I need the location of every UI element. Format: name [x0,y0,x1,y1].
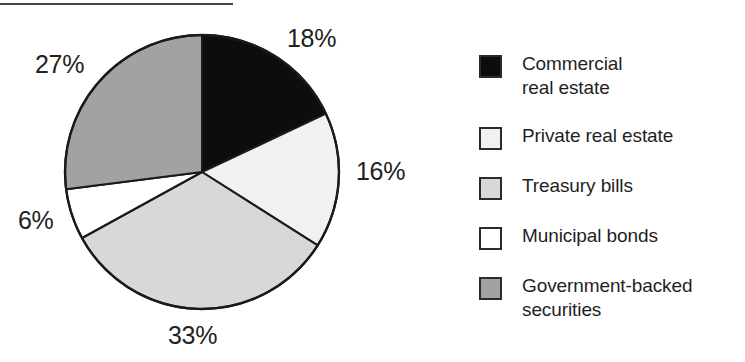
pie-slice-label-government-backed-securities: 27% [35,52,84,77]
legend-item-treasury-bills: Treasury bills [479,174,745,200]
legend-swatch-icon [479,277,502,300]
pie-slice-label-commercial-real-estate: 18% [287,26,336,51]
legend-item-label: Municipal bonds [522,224,658,248]
legend-item-label: Private real estate [522,124,673,148]
legend-item-government-backed-securities: Government-backed securities [479,274,745,322]
chart-legend: Commercial real estate Private real esta… [479,52,745,322]
legend-item-commercial-real-estate: Commercial real estate [479,52,745,100]
legend-item-municipal-bonds: Municipal bonds [479,224,745,250]
pie-slice [65,35,202,189]
legend-swatch-icon [479,177,502,200]
legend-item-label: Commercial real estate [522,52,622,100]
legend-swatch-icon [479,127,502,150]
legend-swatch-icon [479,55,502,78]
legend-item-label: Treasury bills [522,174,633,198]
pie-slice-label-municipal-bonds: 6% [18,208,54,233]
pie-slice-group [65,35,339,309]
pie-slice-label-treasury-bills: 33% [168,323,217,348]
legend-swatch-icon [479,227,502,250]
pie-chart-figure: 18% 16% 33% 6% 27% [0,0,460,362]
pie-slice-label-private-real-estate: 16% [356,159,405,184]
legend-item-label: Government-backed securities [522,274,692,322]
legend-item-private-real-estate: Private real estate [479,124,745,150]
